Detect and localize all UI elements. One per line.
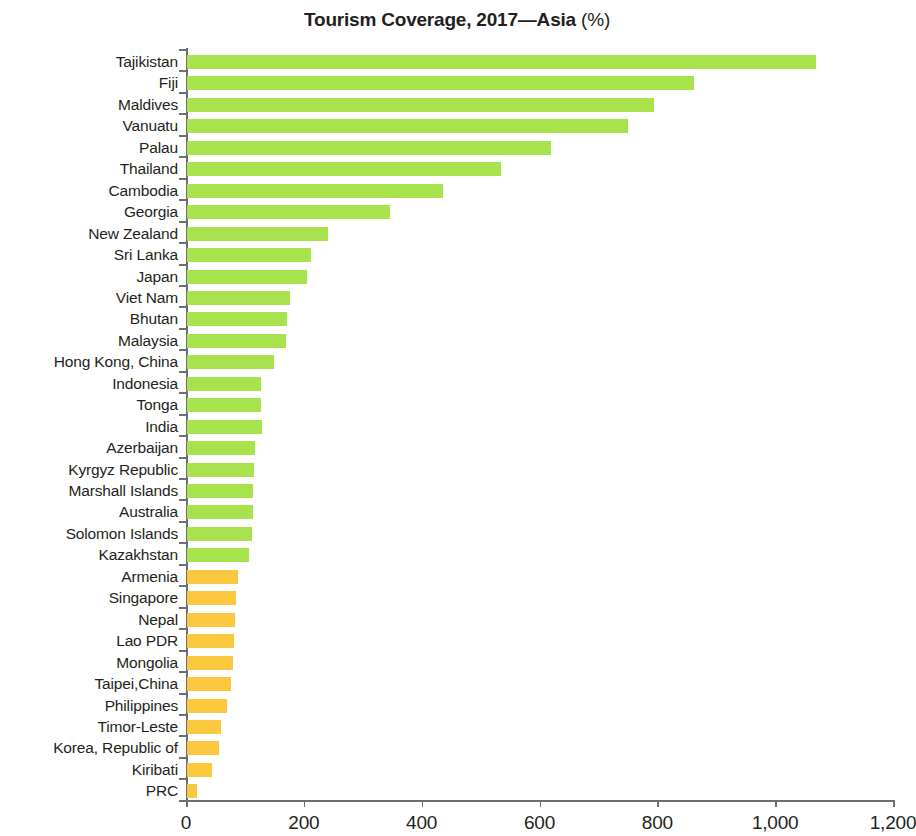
x-axis-tick: [893, 800, 895, 807]
y-axis-tick: [179, 800, 186, 802]
category-label: Tonga: [0, 397, 178, 413]
category-label: Kazakhstan: [0, 547, 178, 563]
bar: [187, 741, 219, 755]
category-label: Korea, Republic of: [0, 740, 178, 756]
x-axis-tick-label: 800: [642, 811, 673, 835]
bar: [187, 548, 249, 562]
x-axis-tick-label: 400: [406, 811, 437, 835]
x-axis-tick-label: 0: [181, 811, 191, 835]
y-axis-tick: [179, 178, 186, 180]
category-label: Maldives: [0, 97, 178, 113]
category-label: Timor-Leste: [0, 719, 178, 735]
category-label: Singapore: [0, 590, 178, 606]
category-label: Georgia: [0, 204, 178, 220]
bar: [187, 312, 287, 326]
bar: [187, 55, 816, 69]
y-axis-tick: [179, 70, 186, 72]
category-label: Nepal: [0, 612, 178, 628]
category-label: Bhutan: [0, 311, 178, 327]
bar: [187, 184, 443, 198]
category-label: Armenia: [0, 569, 178, 585]
category-label: Indonesia: [0, 376, 178, 392]
bar: [187, 162, 501, 176]
bar: [187, 463, 254, 477]
chart-title-unit: (%): [576, 9, 610, 30]
bar: [187, 377, 261, 391]
bar: [187, 98, 654, 112]
bar: [187, 119, 628, 133]
y-axis-tick: [179, 371, 186, 373]
category-label: Cambodia: [0, 183, 178, 199]
category-label: Japan: [0, 269, 178, 285]
y-axis-tick: [179, 650, 186, 652]
y-axis-tick: [179, 156, 186, 158]
y-axis-tick: [179, 757, 186, 759]
y-axis-tick: [179, 778, 186, 780]
bar: [187, 634, 234, 648]
y-axis-tick: [179, 264, 186, 266]
bar: [187, 591, 236, 605]
bar: [187, 420, 262, 434]
y-axis-tick: [179, 457, 186, 459]
y-axis-tick: [179, 607, 186, 609]
x-axis-tick-label: 200: [288, 811, 319, 835]
x-axis-tick: [775, 800, 777, 807]
x-axis-tick: [422, 800, 424, 807]
category-label: Viet Nam: [0, 290, 178, 306]
y-axis-tick: [179, 242, 186, 244]
bar: [187, 484, 253, 498]
y-axis-tick: [179, 199, 186, 201]
x-axis-tick: [186, 800, 188, 807]
bar: [187, 291, 290, 305]
x-axis-tick: [657, 800, 659, 807]
y-axis-tick: [179, 585, 186, 587]
y-axis-tick: [179, 135, 186, 137]
y-axis-tick: [179, 542, 186, 544]
bar: [187, 270, 307, 284]
bar: [187, 141, 551, 155]
x-axis-tick-label: 1,000: [752, 811, 799, 835]
category-label: PRC: [0, 783, 178, 799]
y-axis-tick: [179, 221, 186, 223]
bar: [187, 248, 311, 262]
y-axis-tick: [179, 392, 186, 394]
category-label: New Zealand: [0, 226, 178, 242]
y-axis-tick: [179, 435, 186, 437]
y-axis-tick: [179, 499, 186, 501]
y-axis-tick: [179, 628, 186, 630]
bar: [187, 205, 390, 219]
y-axis-tick: [179, 735, 186, 737]
category-axis-labels: TajikistanFijiMaldivesVanuatuPalauThaila…: [0, 46, 178, 800]
bar: [187, 505, 253, 519]
y-axis-tick: [179, 306, 186, 308]
bar: [187, 334, 286, 348]
y-axis-tick: [179, 49, 186, 51]
chart-title: Tourism Coverage, 2017—Asia (%): [0, 8, 914, 32]
y-axis-tick: [179, 671, 186, 673]
bar: [187, 398, 261, 412]
bar: [187, 784, 197, 798]
category-label: Kiribati: [0, 762, 178, 778]
category-label: Sri Lanka: [0, 247, 178, 263]
category-label: Vanuatu: [0, 118, 178, 134]
bar: [187, 677, 231, 691]
y-axis-tick: [179, 521, 186, 523]
bar: [187, 76, 694, 90]
category-label: Malaysia: [0, 333, 178, 349]
y-axis-tick: [179, 478, 186, 480]
x-axis-tick: [540, 800, 542, 807]
chart-title-main: Tourism Coverage, 2017—Asia: [304, 9, 576, 30]
category-label: Hong Kong, China: [0, 354, 178, 370]
y-axis-tick: [179, 285, 186, 287]
x-axis-tick-label: 600: [524, 811, 555, 835]
category-label: Thailand: [0, 161, 178, 177]
y-axis-tick: [179, 414, 186, 416]
bar: [187, 699, 227, 713]
y-axis-tick: [179, 564, 186, 566]
category-label: Marshall Islands: [0, 483, 178, 499]
category-label: Palau: [0, 140, 178, 156]
y-axis-tick: [179, 349, 186, 351]
category-label: Australia: [0, 504, 178, 520]
category-label: Solomon Islands: [0, 526, 178, 542]
y-axis-tick: [179, 693, 186, 695]
